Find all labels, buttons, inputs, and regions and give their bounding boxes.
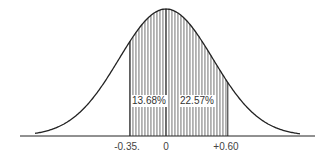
right-area-label: 22.57%	[179, 95, 215, 107]
tick-right: +0.60	[213, 141, 238, 153]
normal-curve-plot	[0, 0, 332, 162]
normal-curve	[35, 9, 300, 134]
tick-left: -0.35.	[114, 141, 140, 153]
normal-curve-chart: 13.68% 22.57% -0.35. 0 +0.60	[0, 0, 332, 162]
left-area-label: 13.68%	[131, 95, 167, 107]
tick-zero: 0	[163, 141, 169, 153]
